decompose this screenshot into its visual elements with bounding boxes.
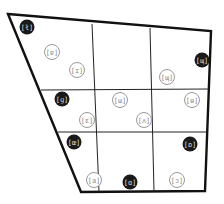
- symbol-marker-filled: [ł]: [20, 20, 35, 35]
- symbol-label: [ł]: [21, 24, 34, 32]
- symbol-label: [ɰ]: [161, 74, 174, 82]
- symbol-marker-filled: [œ]: [67, 135, 82, 150]
- symbol-marker-filled: [ɒ]: [183, 137, 198, 152]
- symbol-label: [ɰ]: [196, 57, 209, 65]
- symbol-label: [ɯ]: [114, 97, 127, 105]
- symbol-label: [ɔ]: [171, 177, 184, 185]
- symbol-marker-open: [ɛ]: [80, 113, 95, 128]
- symbol-marker-open: [ɵ]: [185, 93, 200, 108]
- symbol-marker-open: [ɐ]: [45, 45, 60, 60]
- symbol-label: [a]: [88, 177, 101, 185]
- symbol-marker-open: [ʌ]: [137, 113, 152, 128]
- symbol-marker-open: [ɯ]: [113, 93, 128, 108]
- symbol-label: [ɐ]: [46, 49, 59, 57]
- symbol-marker-open: [ɔ]: [170, 173, 185, 188]
- symbol-marker-open: [a]: [87, 173, 102, 188]
- symbol-marker-open: [ɪ]: [70, 63, 85, 78]
- symbol-marker-filled: [ɑ]: [123, 175, 138, 190]
- symbol-label: [ɪ]: [71, 67, 84, 75]
- vowel-chart: [ł][ɐ][ɪ][ɰ][ɰ][ɡ][ɯ][ɵ][ɛ][ʌ][œ][ɒ][a][…: [0, 0, 224, 204]
- symbol-label: [ʌ]: [138, 117, 151, 125]
- symbol-marker-filled: [ɰ]: [195, 53, 210, 68]
- symbol-label: [ɛ]: [81, 117, 94, 125]
- symbol-label: [ɑ]: [124, 179, 137, 187]
- symbol-marker-open: [ɰ]: [160, 70, 175, 85]
- symbol-label: [œ]: [68, 139, 81, 147]
- chart-canvas: [ł][ɐ][ɪ][ɰ][ɰ][ɡ][ɯ][ɵ][ɛ][ʌ][œ][ɒ][a][…: [0, 0, 224, 204]
- symbol-label: [ɒ]: [184, 141, 197, 149]
- symbol-marker-filled: [ɡ]: [55, 92, 70, 107]
- symbol-label: [ɡ]: [56, 96, 69, 104]
- symbol-label: [ɵ]: [186, 97, 199, 105]
- chart-outline: [8, 14, 211, 192]
